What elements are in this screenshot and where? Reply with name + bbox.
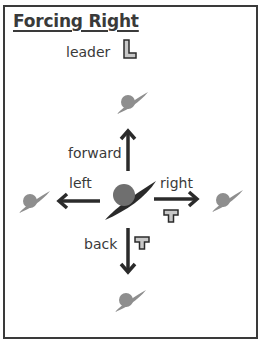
dancer-center-icon: [105, 181, 156, 220]
arrow-back-icon: [121, 228, 135, 272]
arrow-forward-icon: [121, 131, 135, 171]
diagram-graphics: [0, 0, 260, 343]
arrow-left-icon: [59, 194, 100, 208]
dancer-forward-icon: [117, 92, 148, 114]
leader-l-icon: [124, 40, 136, 58]
dancer-left-icon: [19, 191, 50, 213]
dancer-back-icon: [115, 290, 146, 312]
dancer-right-icon: [212, 190, 243, 212]
arrow-right-icon: [154, 192, 197, 206]
back-t-marker-icon: [135, 237, 149, 249]
right-t-marker-icon: [164, 210, 178, 222]
